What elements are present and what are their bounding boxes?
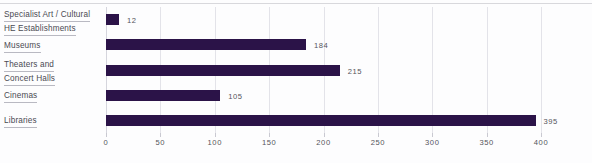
category-label-line: Specialist Art / Cultural <box>4 10 90 22</box>
bar-value-label: 215 <box>348 67 362 76</box>
bar <box>106 90 220 101</box>
category-label-column: Specialist Art / CulturalHE Establishmen… <box>0 9 106 131</box>
bar-value-label: 105 <box>228 92 242 101</box>
category-label: Museums <box>4 41 106 55</box>
bar <box>106 65 340 76</box>
x-tick-label: 400 <box>534 138 548 147</box>
x-tick-mark <box>541 133 542 137</box>
bar-chart: Specialist Art / CulturalHE Establishmen… <box>0 0 592 163</box>
figure-top-rule <box>0 3 592 4</box>
x-tick-mark <box>487 133 488 137</box>
bar-value-label: 395 <box>544 117 558 126</box>
gridline <box>541 7 542 133</box>
x-tick-mark <box>269 133 270 137</box>
x-tick-mark <box>432 133 433 137</box>
category-label-line: Cinemas <box>4 91 37 103</box>
bar <box>106 14 119 25</box>
category-label-line: Concert Halls <box>4 74 55 86</box>
x-tick-mark <box>324 133 325 137</box>
bar <box>106 39 306 50</box>
plot-area: 12184215105395 <box>106 7 541 133</box>
category-label-line: Libraries <box>4 116 37 128</box>
category-label: Cinemas <box>4 91 106 105</box>
x-tick-label: 250 <box>371 138 385 147</box>
x-axis: 050100150200250300350400 <box>106 133 541 155</box>
bar-value-label: 12 <box>127 16 136 25</box>
x-tick-mark <box>378 133 379 137</box>
bar <box>106 115 536 126</box>
x-tick-label: 200 <box>316 138 330 147</box>
category-label-line: HE Establishments <box>4 24 76 36</box>
category-label: Specialist Art / CulturalHE Establishmen… <box>4 10 106 37</box>
category-label-line: Museums <box>4 41 41 53</box>
x-tick-label: 300 <box>425 138 439 147</box>
x-tick-mark <box>160 133 161 137</box>
x-tick-mark <box>215 133 216 137</box>
x-tick-label: 350 <box>479 138 493 147</box>
bar-value-label: 184 <box>314 41 328 50</box>
category-label-line: Theaters and <box>4 60 54 72</box>
x-tick-mark <box>106 133 107 137</box>
category-label: Theaters andConcert Halls <box>4 60 106 87</box>
x-tick-label: 50 <box>156 138 166 147</box>
x-tick-label: 150 <box>262 138 276 147</box>
category-label: Libraries <box>4 116 106 130</box>
x-tick-label: 100 <box>208 138 222 147</box>
x-tick-label: 0 <box>104 138 109 147</box>
